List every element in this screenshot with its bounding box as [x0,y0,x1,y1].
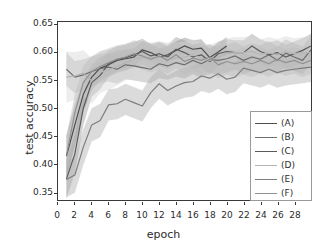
x-axis-label: epoch [0,228,327,241]
legend: (A)(B)(C)(D)(E)(F) [250,111,312,201]
legend-line-swatch [255,137,277,138]
legend-item[interactable]: (A) [254,116,308,130]
y-tick-mark [54,80,57,81]
y-tick-mark [54,52,57,53]
y-tick-mark [54,164,57,165]
y-tick-mark [54,24,57,25]
legend-item[interactable]: (E) [254,172,308,186]
legend-item[interactable]: (D) [254,158,308,172]
legend-line-swatch [255,179,277,180]
x-tick-mark [261,202,262,205]
x-tick-mark [74,202,75,205]
legend-line-swatch [255,165,277,166]
x-tick-mark [91,202,92,205]
legend-label: (A) [281,119,294,128]
legend-label: (E) [281,175,294,184]
x-tick-mark [227,202,228,205]
legend-item[interactable]: (B) [254,130,308,144]
y-tick-label: 0.65 [19,19,53,28]
y-tick-label: 0.35 [19,188,53,197]
x-tick-mark [142,202,143,205]
legend-label: (D) [281,161,295,170]
legend-label: (B) [281,133,294,142]
x-tick-mark [125,202,126,205]
x-tick-mark [210,202,211,205]
x-tick-mark [193,202,194,205]
legend-label: (C) [281,147,294,156]
x-tick-mark [108,202,109,205]
legend-item[interactable]: (F) [254,186,308,200]
y-tick-mark [54,136,57,137]
x-tick-mark [159,202,160,205]
figure-canvas: 0.350.400.450.500.550.600.65 02468101214… [0,0,327,251]
x-tick-mark [176,202,177,205]
legend-label: (F) [281,189,293,198]
legend-line-swatch [255,193,277,194]
y-tick-mark [54,193,57,194]
legend-line-swatch [255,123,277,124]
y-axis-label-box: test accuracy [10,11,24,191]
y-tick-mark [54,108,57,109]
x-tick-mark [295,202,296,205]
x-tick-mark [244,202,245,205]
y-axis-label: test accuracy [23,53,36,183]
legend-line-swatch [255,151,277,152]
x-tick-label: 28 [284,211,306,220]
x-tick-mark [57,202,58,205]
x-tick-mark [278,202,279,205]
x-axis-tick-labels: 0246810121416182022242628 [0,206,327,220]
legend-item[interactable]: (C) [254,144,308,158]
